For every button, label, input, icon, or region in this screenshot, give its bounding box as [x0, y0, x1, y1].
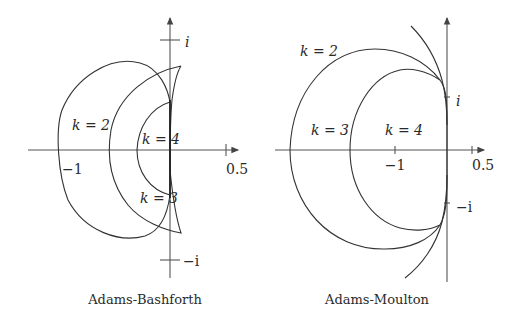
ab-caption: Adams-Bashforth	[87, 292, 202, 307]
am-label-neg-1: −1	[385, 157, 406, 173]
adams-moulton-panel: i −i −1 0.5 k = 2 k = 3 k = 4 Adams-Moul…	[275, 18, 494, 307]
ab-curve-k4	[137, 102, 170, 195]
am-curve-k2	[290, 49, 440, 249]
ab-label-k3: k = 3	[140, 190, 178, 206]
ab-label-k4: k = 4	[142, 131, 180, 147]
am-curve-outer-top	[411, 26, 447, 125]
am-label-neg-i: −i	[456, 199, 473, 215]
am-label-i: i	[456, 93, 460, 109]
ab-label-i: i	[185, 34, 189, 50]
ab-label-neg-1: −1	[62, 161, 83, 177]
am-label-k2: k = 2	[300, 43, 338, 59]
am-label-0.5: 0.5	[472, 157, 494, 173]
ab-label-neg-i: −i	[183, 253, 200, 269]
ab-label-k2: k = 2	[72, 117, 110, 133]
stability-regions-figure: i −i −1 0.5 k = 2 k = 3 k = 4 Adams-Bash…	[0, 0, 515, 318]
adams-bashforth-panel: i −i −1 0.5 k = 2 k = 3 k = 4 Adams-Bash…	[28, 18, 248, 307]
am-caption: Adams-Moulton	[324, 292, 430, 307]
ab-label-0.5: 0.5	[226, 161, 248, 177]
am-curve-outer-bottom	[405, 175, 447, 278]
am-label-k3: k = 3	[311, 122, 349, 138]
am-label-k4: k = 4	[385, 122, 423, 138]
